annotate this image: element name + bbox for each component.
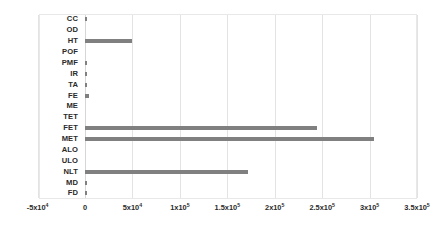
bar-row: ULO xyxy=(0,155,447,166)
x-tick-mantissa: -5x10 xyxy=(27,203,46,212)
x-tick-label-100000: 1x105 xyxy=(170,203,189,213)
bar-track xyxy=(85,134,447,144)
x-tick-exponent: 5 xyxy=(376,202,379,208)
bar-track xyxy=(85,80,447,90)
x-tick-mantissa: 2x10 xyxy=(265,203,281,212)
bar-track xyxy=(85,36,447,46)
category-label-ulo: ULO xyxy=(0,157,78,165)
bar-track xyxy=(85,188,447,198)
category-label-ht: HT xyxy=(0,37,78,45)
bar-row: CC xyxy=(0,14,447,25)
bar-track xyxy=(85,25,447,35)
category-label-fe: FE xyxy=(0,92,78,100)
x-tick-label-200000: 2x105 xyxy=(265,203,284,213)
x-tick-exponent: 5 xyxy=(187,202,190,208)
bar-track xyxy=(85,58,447,68)
bar-track xyxy=(85,14,447,24)
x-tick-mantissa: 5x10 xyxy=(123,203,139,212)
x-tick-label-50000: 5x104 xyxy=(123,203,142,213)
bar-fe xyxy=(85,94,89,98)
x-tick-mantissa: 3.5x10 xyxy=(404,203,427,212)
bar-row: POF xyxy=(0,47,447,58)
category-label-fd: FD xyxy=(0,189,78,197)
bar-row: TET xyxy=(0,112,447,123)
horizontal-bar-chart: CCODHTPOFPMFIRTAFEMETETFETMETALOULONLTMD… xyxy=(0,0,447,231)
bar-cc xyxy=(85,17,87,21)
category-label-ta: TA xyxy=(0,81,78,89)
bar-track xyxy=(85,47,447,57)
bar-track xyxy=(85,69,447,79)
bar-md xyxy=(85,181,87,185)
bar-row: PMF xyxy=(0,58,447,69)
x-tick-label-0: 0 xyxy=(83,203,87,213)
bar-row: TA xyxy=(0,79,447,90)
bar-fet xyxy=(85,126,317,130)
x-axis-tick-labels: -5x10405x1041x1051.5x1052x1052.5x1053x10… xyxy=(0,203,447,223)
bar-track xyxy=(85,91,447,101)
x-tick-exponent: 4 xyxy=(139,202,142,208)
bar-row: FD xyxy=(0,188,447,199)
x-tick-exponent: 5 xyxy=(427,202,430,208)
x-tick-label-150000: 1.5x105 xyxy=(215,203,241,213)
category-label-alo: ALO xyxy=(0,146,78,154)
x-tick-exponent: 5 xyxy=(237,202,240,208)
category-label-fet: FET xyxy=(0,124,78,132)
category-label-cc: CC xyxy=(0,15,78,23)
x-tick-mantissa: 2.5x10 xyxy=(309,203,332,212)
bar-track xyxy=(85,145,447,155)
bar-row: MD xyxy=(0,177,447,188)
bar-row: IR xyxy=(0,68,447,79)
category-label-me: ME xyxy=(0,102,78,110)
x-tick-exponent: 4 xyxy=(46,202,49,208)
bar-track xyxy=(85,167,447,177)
category-label-md: MD xyxy=(0,179,78,187)
category-label-pof: POF xyxy=(0,48,78,56)
x-tick-mantissa: 1x10 xyxy=(170,203,186,212)
category-label-od: OD xyxy=(0,26,78,34)
x-tick-exponent: 5 xyxy=(281,202,284,208)
category-label-ir: IR xyxy=(0,70,78,78)
bar-track xyxy=(85,156,447,166)
bar-row: HT xyxy=(0,36,447,47)
bar-row: OD xyxy=(0,25,447,36)
bar-row: NLT xyxy=(0,166,447,177)
category-label-pmf: PMF xyxy=(0,59,78,67)
x-tick-label-250000: 2.5x105 xyxy=(309,203,335,213)
bar-met xyxy=(85,137,374,141)
bar-ht xyxy=(85,39,132,43)
bar-row: ME xyxy=(0,101,447,112)
category-label-nlt: NLT xyxy=(0,168,78,176)
bar-fd xyxy=(85,191,87,195)
bar-track xyxy=(85,101,447,111)
x-tick-exponent: 5 xyxy=(332,202,335,208)
bar-track xyxy=(85,123,447,133)
x-tick-mantissa: 1.5x10 xyxy=(215,203,238,212)
category-label-tet: TET xyxy=(0,113,78,121)
bar-pmf xyxy=(85,61,87,65)
bar-rows-container: CCODHTPOFPMFIRTAFEMETETFETMETALOULONLTMD… xyxy=(0,14,447,199)
x-tick-label--50000: -5x104 xyxy=(27,203,49,213)
bar-track xyxy=(85,112,447,122)
category-label-met: MET xyxy=(0,135,78,143)
bar-ir xyxy=(85,72,87,76)
bar-row: FET xyxy=(0,123,447,134)
bar-row: FE xyxy=(0,90,447,101)
x-tick-label-350000: 3.5x105 xyxy=(404,203,430,213)
bar-track xyxy=(85,178,447,188)
bar-nlt xyxy=(85,170,248,174)
x-tick-label-300000: 3x105 xyxy=(360,203,379,213)
bar-ta xyxy=(85,83,87,87)
bar-row: ALO xyxy=(0,145,447,156)
x-tick-mantissa: 3x10 xyxy=(360,203,376,212)
bar-row: MET xyxy=(0,134,447,145)
